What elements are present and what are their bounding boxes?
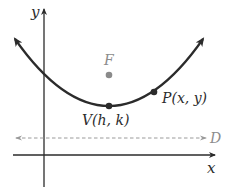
vertex-label: V(h, k) (82, 112, 129, 128)
directrix-label: D (209, 130, 221, 146)
point-p-label: P(x, y) (161, 90, 207, 106)
vertex-point (106, 103, 113, 110)
focus-point (106, 72, 113, 79)
parabola-diagram: y x F V(h, k) P(x, y) D (0, 0, 228, 195)
focus-label: F (103, 52, 115, 68)
x-axis-label: x (207, 159, 216, 177)
curve-point-p (151, 89, 158, 96)
y-axis-label: y (30, 3, 40, 21)
